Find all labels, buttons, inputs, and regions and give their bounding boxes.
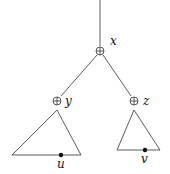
node-label-y: y — [64, 94, 72, 108]
oplus-icon-z — [130, 97, 138, 105]
subtree-triangle-y — [12, 110, 81, 155]
leaf-label-u: u — [57, 157, 65, 171]
leaf-label-v: v — [141, 152, 148, 166]
tree-svg: x y z u v — [0, 0, 170, 174]
edge-x-z — [103, 55, 131, 96]
oplus-icon-y — [53, 97, 61, 105]
node-label-z: z — [142, 94, 150, 108]
oplus-icon-x — [96, 47, 104, 55]
subtree-triangle-z — [117, 110, 160, 150]
edge-x-y — [61, 55, 97, 96]
node-label-x: x — [110, 34, 117, 48]
tree-diagram: x y z u v — [0, 0, 170, 174]
